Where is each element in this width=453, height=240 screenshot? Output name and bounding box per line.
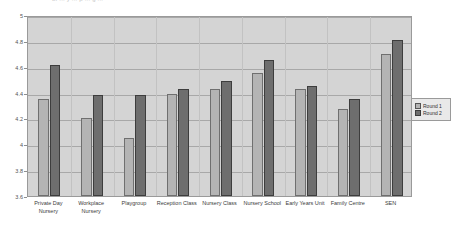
x-axis-label: Nursery Class [198,200,241,208]
legend-swatch-round-2-icon [415,110,421,116]
bar-round-1[interactable] [81,118,92,196]
x-axis-label: Early Years Unit [284,200,327,208]
x-axis-label: SEN [369,200,412,208]
bar-round-1[interactable] [167,94,178,196]
legend-label-round-1: Round 1 [423,103,442,109]
legend-label-round-2: Round 2 [423,110,442,116]
y-axis-tick-mark [24,197,27,198]
bar-round-2[interactable] [93,95,104,196]
category-separator [370,17,371,196]
y-axis-tick-label: 4.2 [2,116,23,122]
category-separator [242,17,243,196]
bar-round-1[interactable] [210,89,221,196]
y-axis-tick-label: 4 [2,142,23,148]
y-axis-tick-label: 3.6 [2,194,23,200]
bar-round-1[interactable] [295,89,306,196]
legend-item-round-1[interactable]: Round 1 [415,103,448,109]
clipped-title-strip: of ... y ... p ... g ... [0,0,453,7]
y-axis-tick-label: 4.8 [2,39,23,45]
bar-series-container [28,17,411,196]
x-axis-label: Family Centre [326,200,369,208]
bar-round-2[interactable] [349,99,360,196]
category-separator [327,17,328,196]
bar-round-1[interactable] [338,109,349,196]
bar-round-2[interactable] [264,60,275,196]
x-axis-label: Playgroup [113,200,156,208]
chart-legend: Round 1 Round 2 [411,98,451,121]
y-axis-tick-label: 3.8 [2,168,23,174]
category-separator [114,17,115,196]
bar-round-2[interactable] [307,86,318,196]
x-axis-labels: Private Day NurseryWorkplace NurseryPlay… [27,200,412,234]
bar-round-2[interactable] [392,40,403,196]
x-axis-label: Nursery School [241,200,284,208]
category-separator [285,17,286,196]
bar-round-2[interactable] [135,95,146,196]
bar-round-2[interactable] [50,65,61,196]
bar-round-1[interactable] [38,99,49,196]
category-separator [156,17,157,196]
y-axis-tick-label: 4.4 [2,91,23,97]
clipped-title-text: of ... y ... p ... g ... [52,0,103,2]
chart-plot-area [27,16,412,197]
x-axis-label: Workplace Nursery [70,200,113,215]
y-axis-tick-label: 4.6 [2,65,23,71]
bar-round-2[interactable] [221,81,232,196]
legend-swatch-round-1-icon [415,103,421,109]
y-axis-tick-label: 5 [2,13,23,19]
category-separator [71,17,72,196]
bar-round-1[interactable] [381,54,392,196]
x-axis-label: Private Day Nursery [27,200,70,215]
category-separator [199,17,200,196]
bar-round-2[interactable] [178,89,189,196]
legend-item-round-2[interactable]: Round 2 [415,110,448,116]
x-axis-label: Reception Class [155,200,198,208]
bar-round-1[interactable] [252,73,263,196]
bar-round-1[interactable] [124,138,135,196]
